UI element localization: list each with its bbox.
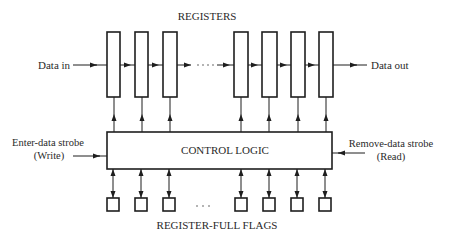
- register-7: [319, 32, 333, 97]
- flag-4: [235, 198, 247, 211]
- flag-7: [319, 198, 331, 211]
- flag-3: [163, 198, 175, 211]
- register-full-flags-title: REGISTER-FULL FLAGS: [157, 219, 278, 231]
- read-label: (Read): [377, 151, 406, 163]
- control-logic-label: CONTROL LOGIC: [181, 144, 269, 156]
- registers-title: REGISTERS: [178, 10, 237, 22]
- remove-strobe-label: Remove-data strobe: [349, 138, 434, 149]
- write-label: (Write): [34, 150, 65, 162]
- flag-1: [107, 198, 119, 211]
- data-out-label: Data out: [371, 59, 409, 71]
- fifo-buffer-diagram: REGISTERS Data in Data out: [0, 0, 449, 241]
- register-ellipsis: [197, 64, 214, 66]
- register-1: [107, 32, 120, 97]
- register-3: [163, 32, 177, 97]
- enter-strobe-label: Enter-data strobe: [12, 137, 84, 148]
- flag-ellipsis: [196, 205, 210, 207]
- flag-5: [263, 198, 275, 211]
- register-4: [234, 32, 248, 97]
- register-5: [262, 32, 277, 97]
- flag-2: [135, 198, 147, 211]
- control-flag-arrows: [113, 169, 325, 198]
- data-in-label: Data in: [38, 59, 71, 71]
- register-6: [291, 32, 305, 97]
- control-to-register-arrows: [112, 97, 329, 132]
- flags-group: [107, 198, 331, 211]
- register-2: [135, 32, 148, 97]
- flag-6: [291, 198, 303, 211]
